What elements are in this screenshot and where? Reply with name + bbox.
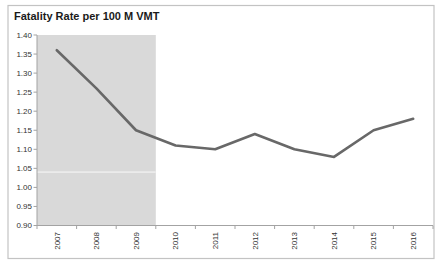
x-tick-label-2008: 2008 bbox=[92, 231, 101, 249]
x-tick-label-2009: 2009 bbox=[132, 231, 141, 249]
y-tick-label: 1.05 bbox=[16, 164, 32, 173]
x-tick-label-2011: 2011 bbox=[211, 231, 220, 249]
x-tick-label-2012: 2012 bbox=[251, 231, 260, 249]
y-tick-label: 1.35 bbox=[16, 50, 32, 59]
y-tick-label: 1.10 bbox=[16, 145, 32, 154]
y-tick-label: 1.00 bbox=[16, 183, 32, 192]
chart-canvas: 1.401.351.301.251.201.151.101.051.000.95… bbox=[0, 0, 440, 264]
y-tick-label: 0.90 bbox=[16, 221, 32, 230]
y-tick-label: 1.20 bbox=[16, 107, 32, 116]
x-tick-label-2016: 2016 bbox=[409, 231, 418, 249]
chart-title: Fatality Rate per 100 M VMT bbox=[14, 10, 160, 22]
x-tick-label-2013: 2013 bbox=[290, 231, 299, 249]
y-tick-label: 0.95 bbox=[16, 202, 32, 211]
fatality-rate-chart: 1.401.351.301.251.201.151.101.051.000.95… bbox=[0, 0, 440, 264]
y-tick-label: 1.30 bbox=[16, 69, 32, 78]
y-tick-label: 1.40 bbox=[16, 31, 32, 40]
x-tick-label-2015: 2015 bbox=[369, 231, 378, 249]
y-tick-label: 1.25 bbox=[16, 88, 32, 97]
x-tick-label-2007: 2007 bbox=[53, 231, 62, 249]
y-tick-label: 1.15 bbox=[16, 126, 32, 135]
x-tick-label-2014: 2014 bbox=[330, 231, 339, 249]
x-tick-label-2010: 2010 bbox=[171, 231, 180, 249]
